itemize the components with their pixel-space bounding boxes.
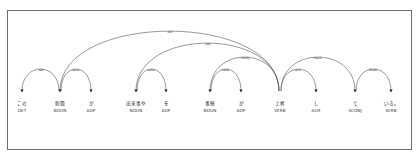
arc-label: obj [206,42,211,46]
token-pos-tag: NOUN [53,108,66,113]
dependency-arc [136,43,279,91]
token-word: 事態 [205,100,215,106]
dependency-arc [211,69,241,91]
arrow-head-icon [314,90,317,93]
arc-label: case [222,68,229,72]
arc-label: mark [313,56,321,60]
arrow-head-icon [20,90,23,93]
token-pos-tag: NOUN [129,108,142,113]
arc-label: obl [168,30,173,34]
arc-label: nsubj [241,56,250,60]
dependency-arc [356,69,391,91]
token-word: が [239,100,244,106]
token-pos-tag: SCONJ [348,108,362,113]
token-pos-tag: ADP [162,108,171,113]
dependency-arc [22,69,59,91]
token-word: て [353,100,358,106]
token-pos-tag: DET [18,108,27,113]
token-word: が [89,100,94,106]
token-word: 出来事や [126,100,146,106]
dependency-arc [137,69,166,91]
token-pos-tag: ADP [237,108,246,113]
token-word: し [314,100,319,106]
token-word: 上昇 [275,100,285,106]
token-word: この [17,100,27,106]
arrow-head-icon [239,90,242,93]
token-pos-tag: VERB [385,108,397,113]
arc-label: fixed [369,68,377,72]
arrow-head-icon [389,90,392,93]
arc-label: det [38,68,44,72]
token-pos-tag: ADP [87,108,96,113]
dependency-arc [60,31,279,91]
token-pos-tag: VERB [274,108,286,113]
token-pos-tag: AUX [311,108,320,113]
arc-label: case [72,68,79,72]
token-pos-tag: NOUN [203,108,216,113]
dependency-arc [210,57,279,91]
dependency-arcs: detcaseoblcaseobjcasensubjauxmarkfixed [0,0,420,162]
token-word: 新聞 [55,100,65,106]
arc-label: case [147,68,154,72]
arc-label: aux [295,68,301,72]
dependency-arc [61,69,91,91]
arrow-head-icon [89,90,92,93]
arrow-head-icon [164,90,167,93]
token-word: いる。 [384,100,399,106]
token-word: を [164,100,169,106]
dependency-arc [281,57,355,91]
